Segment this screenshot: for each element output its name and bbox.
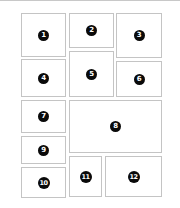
panel-8: 8 xyxy=(69,100,162,153)
panel-7: 7 xyxy=(21,100,66,133)
panel-3: 3 xyxy=(116,13,162,58)
panel-number-badge: 8 xyxy=(110,121,121,132)
panel-number-badge: 1 xyxy=(38,30,49,41)
panel-5: 5 xyxy=(69,51,114,97)
top-divider xyxy=(0,0,180,1)
panel-number-badge: 10 xyxy=(38,177,50,189)
panel-number-badge: 12 xyxy=(128,171,140,183)
panel-6: 6 xyxy=(116,61,162,97)
panel-12: 12 xyxy=(105,156,162,197)
panel-1: 1 xyxy=(21,13,66,57)
panel-4: 4 xyxy=(21,59,66,97)
panel-number-badge: 4 xyxy=(38,73,49,84)
panel-2: 2 xyxy=(69,13,114,48)
panel-10: 10 xyxy=(21,167,66,198)
panel-9: 9 xyxy=(21,136,66,164)
panel-number-badge: 2 xyxy=(86,25,97,36)
panel-11: 11 xyxy=(69,156,102,197)
panel-number-badge: 3 xyxy=(134,30,145,41)
panel-number-badge: 6 xyxy=(134,74,145,85)
panel-number-badge: 5 xyxy=(86,69,97,80)
panel-number-badge: 11 xyxy=(80,171,92,183)
panel-number-badge: 7 xyxy=(38,111,49,122)
panel-number-badge: 9 xyxy=(38,145,49,156)
